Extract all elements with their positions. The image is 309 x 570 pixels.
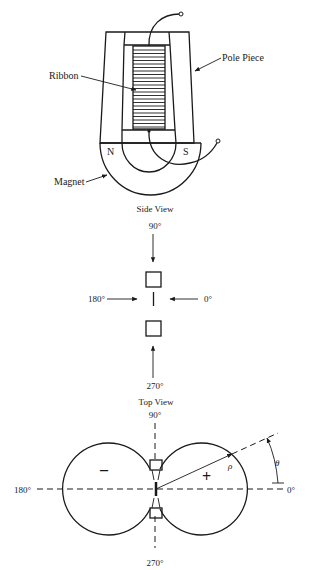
side-view-90-label: 90°: [149, 221, 162, 231]
north-pole-label: N: [107, 146, 114, 157]
rho-vector-arrow: [156, 454, 232, 489]
side-view-bottom-square: [146, 321, 161, 336]
bottom-terminal-icon: [216, 139, 220, 143]
positive-sign: +: [202, 468, 211, 485]
upper-taper-lines: [152, 470, 160, 480]
top-view-90-label: 90°: [149, 410, 162, 420]
pole-piece-outline: [100, 32, 194, 143]
top-view-270-label: 270°: [146, 558, 164, 568]
side-view-top-square: [146, 272, 161, 287]
side-view-180-label: 180°: [88, 294, 106, 304]
ribbon-label: Ribbon: [49, 70, 78, 81]
ribbon-microphone-figure: Ribbon Pole Piece Magnet N S Side View 9…: [0, 0, 309, 570]
lower-taper-lines: [152, 498, 160, 508]
magnet-pointer-arrow: [86, 175, 107, 182]
top-view: Top View 90° 180° 0° ρ θ – + 270°: [14, 397, 296, 568]
pole-piece-right-inner: [169, 32, 176, 143]
south-pole-label: S: [183, 146, 189, 157]
ribbon-mic-assembly: Ribbon Pole Piece Magnet N S: [49, 12, 264, 195]
top-terminal-icon: [179, 12, 183, 16]
magnet-label: Magnet: [54, 176, 85, 187]
top-view-180-label: 180°: [14, 485, 32, 495]
rho-label: ρ: [227, 461, 233, 471]
side-view: Side View 90° 180° 0° 270°: [88, 204, 213, 391]
side-view-title: Side View: [136, 204, 174, 214]
theta-ray-dashed: [232, 433, 278, 454]
polar-lobe-negative: [63, 443, 150, 535]
top-view-0-label: 0°: [287, 485, 296, 495]
ribbon-pointer-arrow: [81, 76, 136, 90]
pole-piece-label: Pole Piece: [222, 52, 264, 63]
top-lead-wire: [149, 14, 180, 46]
negative-sign: –: [99, 461, 109, 478]
polar-lobe-positive: [160, 443, 247, 535]
top-view-title: Top View: [139, 397, 174, 407]
side-view-0-label: 0°: [204, 294, 213, 304]
theta-label: θ: [275, 458, 280, 468]
ribbon-corrugations: [133, 50, 165, 127]
magnet-inner-arc: [122, 143, 176, 172]
pole-piece-pointer-arrow: [195, 58, 221, 71]
side-view-270-label: 270°: [146, 381, 164, 391]
